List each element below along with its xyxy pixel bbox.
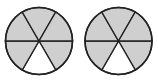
fraction-circle-left [6,7,73,74]
fraction-circles-svg [0,0,158,80]
fraction-circle-right [85,7,152,74]
fraction-diagram [0,0,158,80]
